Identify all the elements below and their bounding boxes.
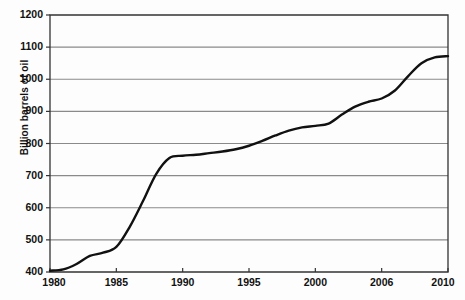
data-series-line xyxy=(50,56,448,271)
gridline-group xyxy=(50,47,448,240)
oil-reserves-line-chart: Billion barrels of oil 40050060070080090… xyxy=(0,0,465,300)
plot-area xyxy=(0,0,465,300)
